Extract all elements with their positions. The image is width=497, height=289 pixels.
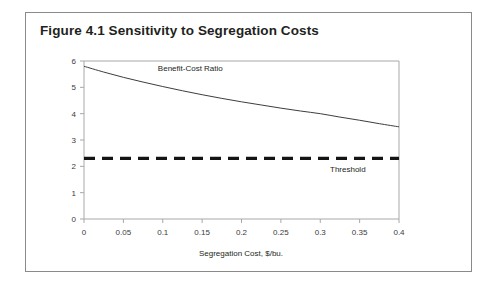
series-annotation-benefit-cost-ratio: Benefit-Cost Ratio (158, 64, 223, 73)
x-tick-label: 0.1 (157, 228, 169, 237)
x-tick-label: 0.2 (236, 228, 248, 237)
y-tick-label: 5 (72, 83, 77, 92)
chart-svg: 0123456 00.050.10.150.20.250.30.350.4 Be… (26, 13, 473, 273)
benefit-cost-ratio-curve (84, 66, 399, 127)
x-axis-ticks: 00.050.10.150.20.250.30.350.4 (82, 219, 405, 237)
chart-annotations: Benefit-Cost RatioThreshold (158, 64, 366, 174)
chart-plot-area: 0123456 00.050.10.150.20.250.30.350.4 Be… (26, 13, 473, 273)
series-annotation-threshold: Threshold (330, 165, 366, 174)
x-tick-label: 0.4 (393, 228, 405, 237)
x-tick-label: 0.15 (194, 228, 210, 237)
y-axis-ticks: 0123456 (72, 57, 84, 224)
x-tick-label: 0 (82, 228, 87, 237)
y-tick-label: 1 (72, 189, 77, 198)
y-tick-label: 6 (72, 57, 77, 66)
chart-axes (84, 61, 399, 219)
x-tick-label: 0.25 (273, 228, 289, 237)
figure-container: Figure 4.1 Sensitivity to Segregation Co… (25, 12, 472, 272)
x-axis-title: Segregation Cost, $/bu. (199, 249, 283, 258)
y-tick-label: 2 (72, 162, 77, 171)
y-tick-label: 3 (72, 136, 77, 145)
y-tick-label: 0 (72, 215, 77, 224)
x-tick-label: 0.3 (315, 228, 327, 237)
y-tick-label: 4 (72, 110, 77, 119)
x-tick-label: 0.05 (116, 228, 132, 237)
x-tick-label: 0.35 (352, 228, 368, 237)
